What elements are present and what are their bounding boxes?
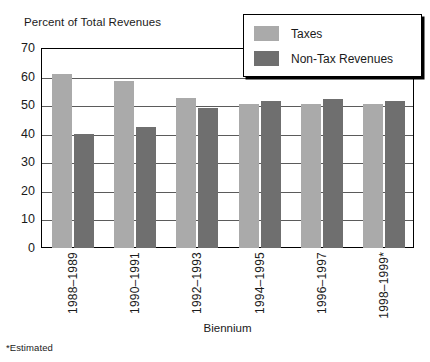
bar-taxes bbox=[52, 74, 72, 248]
bar-non-tax-revenues bbox=[198, 108, 218, 248]
legend-swatch-non-tax-revenues bbox=[254, 51, 279, 66]
bar-chart: Percent of Total Revenues 70605040302010… bbox=[0, 0, 430, 362]
x-tick-label: 1988–1989 bbox=[66, 252, 80, 314]
bar-group bbox=[239, 48, 281, 248]
x-tick-label: 1990–1991 bbox=[128, 252, 142, 314]
y-axis-title: Percent of Total Revenues bbox=[24, 16, 161, 28]
y-tick-label-60: 60 bbox=[1, 70, 35, 83]
legend-label-taxes: Taxes bbox=[291, 27, 322, 41]
legend-item-taxes: Taxes bbox=[254, 21, 421, 46]
x-axis-tick-labels: 1988–19891990–19911992–19931994–19951996… bbox=[41, 248, 414, 320]
y-tick-label-10: 10 bbox=[1, 213, 35, 226]
bar-non-tax-revenues bbox=[385, 101, 405, 248]
x-tick-label: 1992–1993 bbox=[190, 252, 204, 314]
x-tick-label: 1994–1995 bbox=[253, 252, 267, 314]
legend-item-non-tax-revenues: Non-Tax Revenues bbox=[254, 46, 421, 71]
x-tick-label: 1996–1997 bbox=[315, 252, 329, 314]
bar-group bbox=[114, 48, 156, 248]
bar-group bbox=[363, 48, 405, 248]
bar-taxes bbox=[301, 104, 321, 248]
bar-non-tax-revenues bbox=[74, 134, 94, 248]
bar-non-tax-revenues bbox=[261, 101, 281, 248]
footnote: *Estimated bbox=[6, 342, 53, 353]
y-tick-label-50: 50 bbox=[1, 99, 35, 112]
y-tick-label-30: 30 bbox=[1, 156, 35, 169]
bar-taxes bbox=[114, 81, 134, 248]
legend-label-non-tax-revenues: Non-Tax Revenues bbox=[291, 52, 393, 66]
bar-group bbox=[176, 48, 218, 248]
y-tick-label-40: 40 bbox=[1, 127, 35, 140]
chart-legend: Taxes Non-Tax Revenues bbox=[243, 14, 422, 77]
bars-layer bbox=[41, 48, 414, 248]
y-tick-label-70: 70 bbox=[1, 42, 35, 55]
y-tick-label-0: 0 bbox=[1, 242, 35, 255]
x-tick-label: 1998–1999* bbox=[377, 252, 391, 319]
bar-non-tax-revenues bbox=[136, 127, 156, 248]
legend-swatch-taxes bbox=[254, 26, 279, 41]
bar-taxes bbox=[363, 104, 383, 248]
x-axis-title: Biennium bbox=[41, 322, 414, 334]
y-tick-label-20: 20 bbox=[1, 185, 35, 198]
bar-group bbox=[301, 48, 343, 248]
bar-taxes bbox=[176, 98, 196, 248]
bar-non-tax-revenues bbox=[323, 99, 343, 248]
bar-taxes bbox=[239, 104, 259, 248]
bar-group bbox=[52, 48, 94, 248]
